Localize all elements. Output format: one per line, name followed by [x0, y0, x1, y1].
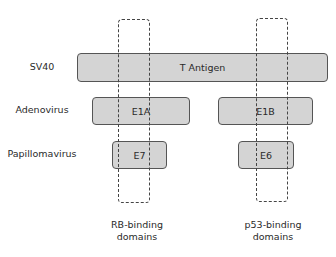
rb-binding-domain-outline [118, 19, 150, 203]
row-label-sv40: SV40 [0, 61, 84, 72]
p53-binding-domain-outline [256, 18, 288, 202]
row-label-papillomavirus: Papillomavirus [0, 148, 84, 159]
rb-binding-caption: RB-binding domains [92, 219, 182, 243]
p53-caption-line2: domains [228, 231, 318, 243]
p53-binding-caption: p53-binding domains [228, 219, 318, 243]
p53-caption-line1: p53-binding [228, 219, 318, 231]
rb-caption-line1: RB-binding [92, 219, 182, 231]
row-label-adenovirus: Adenovirus [0, 104, 84, 115]
t-antigen-box: T Antigen [77, 53, 328, 82]
t-antigen-label: T Antigen [180, 62, 226, 73]
rb-caption-line2: domains [92, 231, 182, 243]
